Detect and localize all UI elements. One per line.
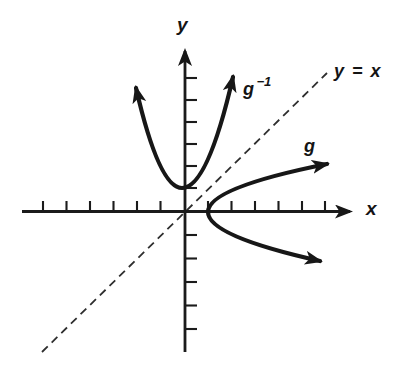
- curve-g-label: g: [303, 136, 317, 156]
- y-axis-label: y: [176, 14, 189, 35]
- curve-g-inverse-label: g−1: [242, 74, 271, 99]
- function-and-inverse-graph: y x y = x g g−1: [0, 0, 400, 369]
- x-axis-label: x: [365, 198, 378, 219]
- g-inverse-exponent: −1: [257, 74, 272, 89]
- y-axis-ticks: [185, 78, 197, 329]
- identity-line-label: y = x: [333, 61, 382, 81]
- g-inverse-base: g: [242, 79, 256, 99]
